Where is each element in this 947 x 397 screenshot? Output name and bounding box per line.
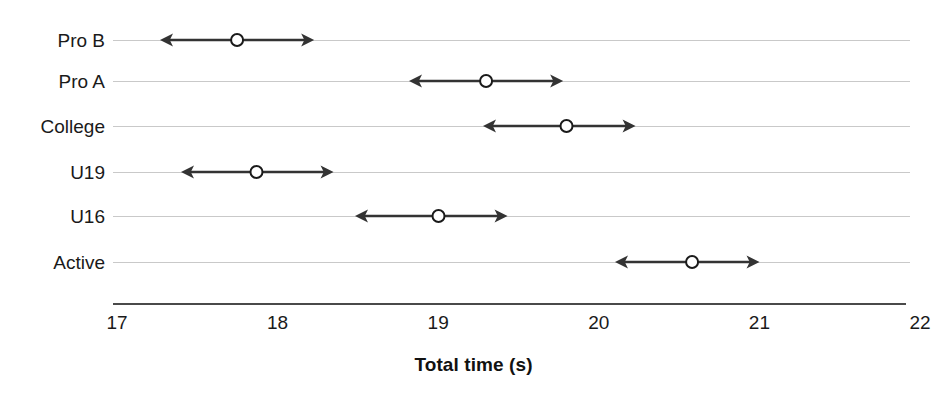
y-axis-category-label: U19 (70, 163, 105, 182)
y-axis-category-label: Pro A (59, 72, 105, 91)
y-axis-category-label: Pro B (57, 31, 105, 50)
x-axis-tick-label: 19 (428, 313, 449, 332)
y-axis-category-label: Active (53, 253, 105, 272)
data-point-range (167, 159, 348, 185)
data-point-range (341, 203, 522, 229)
chart-container: Pro BPro ACollegeU19U16Active 1718192021… (0, 0, 947, 397)
x-axis-title: Total time (s) (0, 355, 947, 374)
y-axis-category-label: College (41, 117, 105, 136)
data-point-range (469, 113, 650, 139)
x-axis-tick-label: 21 (749, 313, 770, 332)
data-point-range (601, 249, 774, 275)
plot-area: Pro BPro ACollegeU19U16Active (0, 0, 947, 300)
y-axis-category-label: U16 (70, 207, 105, 226)
x-axis-tick-label: 17 (106, 313, 127, 332)
gridline (113, 262, 910, 263)
x-axis-tick-label: 20 (588, 313, 609, 332)
x-axis-tick-label: 22 (909, 313, 930, 332)
x-axis-tick-label: 18 (267, 313, 288, 332)
data-point-range (146, 27, 328, 53)
data-point-range (395, 68, 577, 94)
x-axis-line (113, 303, 906, 305)
